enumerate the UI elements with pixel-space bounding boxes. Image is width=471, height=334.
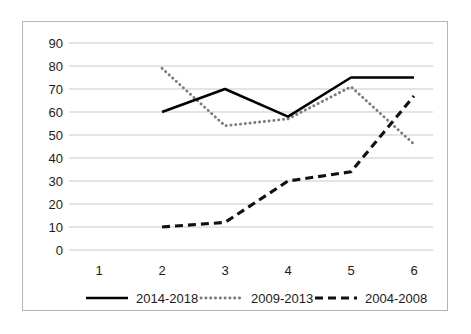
x-axis-labels: 1 2 3 4 5 6 [95,263,417,278]
y-axis-labels: 90 80 70 60 50 40 30 20 10 0 [49,36,63,258]
x-axis-tick-1: 1 [95,263,102,278]
y-axis-tick-0: 0 [56,243,63,258]
x-axis-tick-3: 3 [221,263,228,278]
x-axis-tick-4: 4 [284,263,291,278]
y-axis-tick-30: 30 [49,174,63,189]
x-axis-tick-5: 5 [347,263,354,278]
legend-label-2014-2018: 2014-2018 [136,291,198,306]
chart-plot-area: 90 80 70 60 50 40 30 20 10 0 1 2 3 4 5 6 [23,22,449,312]
x-axis-tick-6: 6 [410,263,417,278]
line-chart-svg: 90 80 70 60 50 40 30 20 10 0 1 2 3 4 5 6 [23,22,449,312]
legend-label-2009-2013: 2009-2013 [251,291,313,306]
chart-legend: 2014-2018 2009-2013 2004-2008 [86,291,427,306]
y-axis-tick-70: 70 [49,82,63,97]
y-axis-tick-50: 50 [49,128,63,143]
y-axis-tick-90: 90 [49,36,63,51]
series-line-2009-2013 [162,68,414,144]
x-axis-tick-2: 2 [158,263,165,278]
gridlines [69,43,433,250]
y-axis-tick-80: 80 [49,59,63,74]
chart-container: 90 80 70 60 50 40 30 20 10 0 1 2 3 4 5 6 [22,21,448,311]
y-axis-tick-10: 10 [49,220,63,235]
legend-label-2004-2008: 2004-2008 [365,291,427,306]
y-axis-tick-40: 40 [49,151,63,166]
y-axis-tick-20: 20 [49,197,63,212]
y-axis-tick-60: 60 [49,105,63,120]
